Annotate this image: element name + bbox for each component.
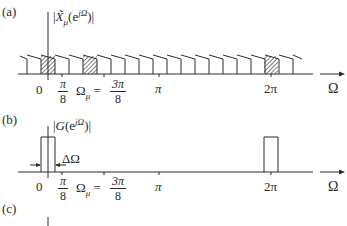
panel-b-tick-3pi-over-8: 3π 8: [110, 175, 126, 202]
panel-b-arrow-head-icon: [339, 170, 345, 175]
panel-a-tag: (a): [2, 5, 16, 18]
panel-b-axis-label: Ω: [328, 180, 338, 194]
panel-a-tick-pi-over-8: π 8: [58, 78, 68, 105]
panel-b-tick-zero: 0: [36, 180, 43, 193]
panel-a-axis-label: Ω: [328, 82, 338, 96]
panel-b-tick-2pi: 2π: [264, 180, 277, 193]
panel-b-filter-rect-2pi: [264, 137, 278, 172]
panel-b-ylabel: |G(ejΩ)|: [53, 118, 91, 132]
panel-a-tick-2pi: 2π: [264, 82, 277, 95]
panel-a-arrow-head-icon: [339, 72, 345, 77]
panel-b-delta-arrow-right-head-icon: [55, 163, 60, 167]
panel-a-tick-zero: 0: [36, 83, 43, 96]
panel-b-tick-pi: π: [155, 180, 162, 193]
panel-a-tick-pi: π: [155, 82, 162, 95]
panel-b-delta-omega-label: ΔΩ: [62, 152, 80, 165]
panel-b-tick-pi-over-8: π 8: [58, 175, 68, 202]
panel-b-delta-arrow-left-head-icon: [36, 163, 41, 167]
panel-b-tag: (b): [2, 113, 17, 126]
panel-a-tick-omega-mu: Ωμ =: [76, 84, 101, 101]
panel-c-tag: (c): [2, 202, 16, 215]
panel-a-ylabel: |X̃μ(ejΩ)|: [53, 9, 94, 27]
panel-a-tick-3pi-over-8: 3π 8: [110, 78, 126, 105]
panel-a-sawtooth: [20, 55, 302, 74]
spectrum-diagram: [0, 0, 347, 226]
panel-b-tick-omega-mu: Ωμ =: [76, 181, 101, 198]
panel-a-hatched-band-2pi: [264, 56, 278, 74]
